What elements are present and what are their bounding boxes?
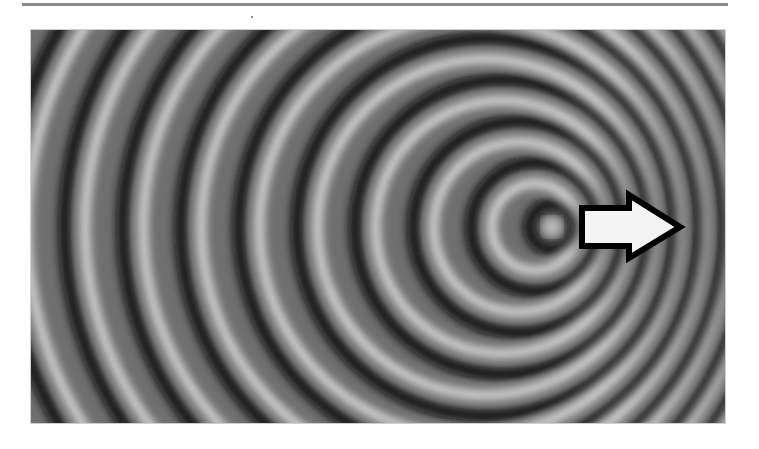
wavefront-rings [31,30,725,423]
stray-dot [251,16,253,18]
top-divider-line [22,3,728,6]
doppler-wave-figure [31,30,725,423]
source-glow [542,217,562,237]
